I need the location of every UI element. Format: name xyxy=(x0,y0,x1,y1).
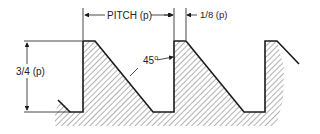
flat-label: 1/8 (p) xyxy=(200,9,227,20)
angle-leader xyxy=(130,68,138,76)
depth-label: 3/4 (p) xyxy=(16,66,45,77)
thread-profile-diagram: 3/4 (p) PITCH (p) 1/8 (p) 45o xyxy=(0,0,320,134)
angle-label: 45o xyxy=(143,54,158,66)
thread-material-hatch xyxy=(55,41,284,126)
angle-leader-top xyxy=(157,57,173,60)
pitch-label: PITCH (p) xyxy=(107,10,152,21)
